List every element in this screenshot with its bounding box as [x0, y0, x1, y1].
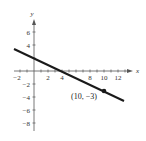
- y-tick-label: −8: [23, 120, 31, 128]
- data-point: [102, 89, 107, 94]
- x-tick-label: −2: [13, 74, 21, 82]
- x-axis-arrow-icon: [127, 69, 133, 73]
- y-tick-label: −6: [23, 107, 31, 115]
- x-axis: x −2 2 4 8 10 12: [13, 67, 140, 82]
- x-tick-label: 4: [60, 74, 64, 82]
- x-tick-label: 8: [88, 74, 92, 82]
- y-tick-label: 6: [27, 29, 31, 37]
- y-axis-label: y: [29, 10, 34, 18]
- y-axis-arrow-icon: [32, 19, 36, 25]
- x-tick-label: 12: [115, 74, 123, 82]
- y-axis: y 6 4 −2 −4 −6 −8: [23, 10, 36, 131]
- chart: x −2 2 4 8 10 12 y 6 4 −2 −4 −6 −8 (10, …: [0, 0, 146, 141]
- point-label: (10, −3): [71, 92, 97, 101]
- x-axis-label: x: [135, 67, 140, 75]
- x-tick-label: 2: [46, 74, 50, 82]
- y-tick-label: 4: [27, 42, 31, 50]
- y-tick-label: −4: [23, 94, 31, 102]
- y-tick-label: −2: [23, 81, 31, 89]
- x-tick-label: 10: [101, 74, 109, 82]
- data-line: [14, 49, 124, 101]
